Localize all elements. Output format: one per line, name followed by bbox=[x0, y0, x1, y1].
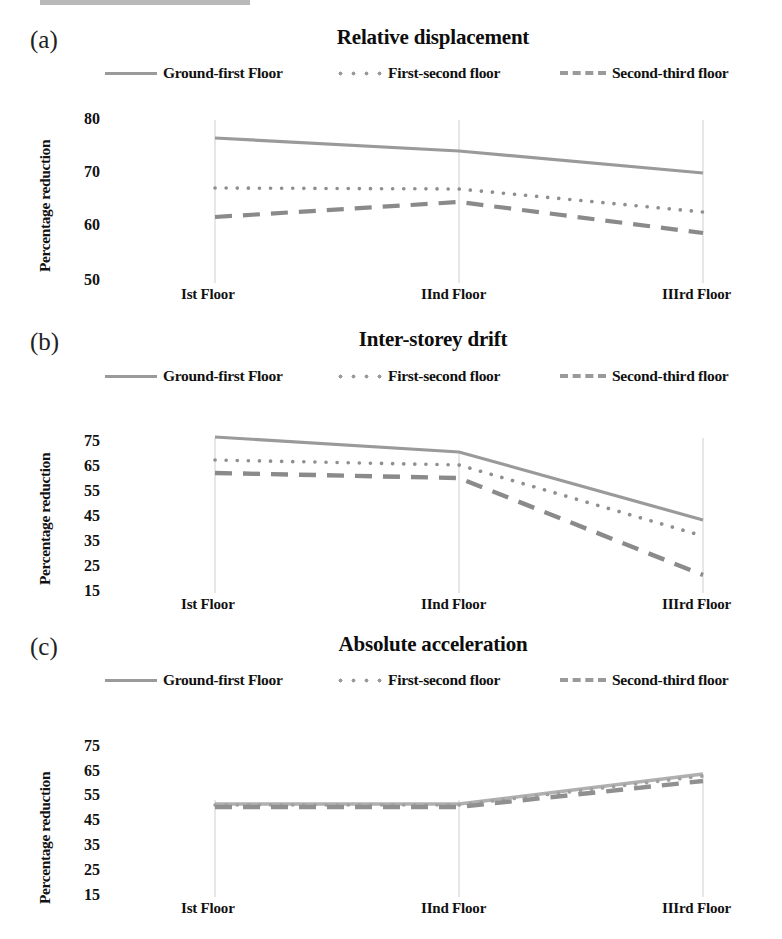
x-tick-b-1: Ist Floor bbox=[181, 596, 235, 613]
chart-panel-c: (c) Absolute acceleration Ground-first F… bbox=[0, 619, 782, 939]
x-tick-c-3: IIIrd Floor bbox=[662, 900, 731, 917]
chart-panel-a: (a) Relative displacement Ground-first F… bbox=[0, 0, 782, 310]
x-tick-b-3: IIIrd Floor bbox=[662, 596, 731, 613]
x-tick-a-2: IInd Floor bbox=[421, 286, 486, 303]
x-tick-c-2: IInd Floor bbox=[421, 900, 486, 917]
plot-area-c bbox=[0, 619, 782, 939]
chart-panel-b: (b) Inter-storey drift Ground-first Floo… bbox=[0, 310, 782, 619]
x-tick-c-1: Ist Floor bbox=[181, 900, 235, 917]
plot-area-a bbox=[0, 0, 782, 310]
x-tick-a-1: Ist Floor bbox=[181, 286, 235, 303]
x-tick-a-3: IIIrd Floor bbox=[662, 286, 731, 303]
x-tick-b-2: IInd Floor bbox=[421, 596, 486, 613]
plot-area-b bbox=[0, 310, 782, 619]
